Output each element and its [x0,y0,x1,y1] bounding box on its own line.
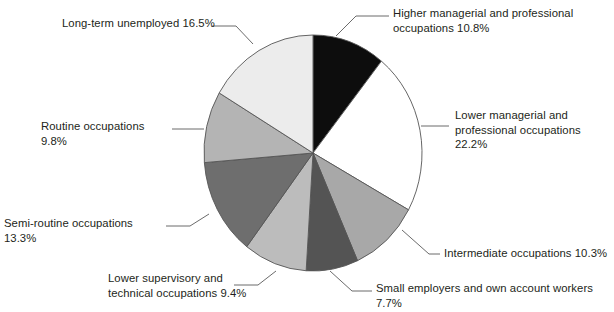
pie-label-lower-managerial: Lower managerial and professional occupa… [455,108,613,152]
pie-label-lower-supervisory: Lower supervisory and technical occupati… [108,271,256,300]
leader-line-higher-managerial [336,16,389,36]
pie-chart-figure: Higher managerial and professional occup… [0,0,614,312]
leader-line-small-employers [330,271,372,291]
pie-label-long-term-unemployed: Long-term unemployed 16.5% [62,16,236,31]
leader-line-intermediate [402,230,440,254]
pie-chart-svg [0,0,614,312]
pie-label-semi-routine: Semi-routine occupations 13.3% [4,216,164,245]
pie-label-routine: Routine occupations 9.8% [41,119,169,148]
pie-label-higher-managerial: Higher managerial and professional occup… [393,6,611,35]
pie-label-intermediate: Intermediate occupations 10.3% [444,246,612,261]
pie-slices-group [204,35,422,271]
leader-line-semi-routine [166,214,209,226]
pie-label-small-employers: Small employers and own account workers … [376,281,613,310]
